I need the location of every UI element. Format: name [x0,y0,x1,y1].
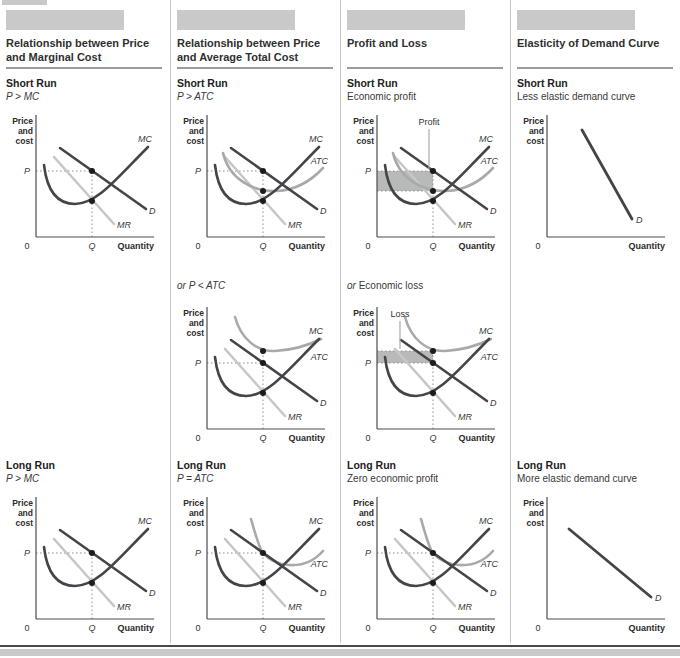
d-curve [569,529,651,597]
column-title: Relationship between Price and Marginal … [6,37,164,67]
intersection-dot [430,198,436,204]
mr-curve-label: MR [288,220,302,230]
intersection-dot [89,580,95,586]
intersection-dot [430,550,436,556]
long-run-section-header: Long Run P > MC [6,459,167,489]
atc-curve-label: ATC [480,559,499,569]
subtitle-text: P = ATC [177,473,214,484]
intersection-dot [430,168,436,174]
y-axis-label: and [359,126,374,136]
mr-curve-label: MR [117,220,131,230]
quantity-tick-label: Q [429,623,436,633]
origin-label: 0 [535,623,540,633]
y-axis-label: and [359,508,374,518]
y-axis-label: and [359,318,374,328]
diagram-svg: Priceandcost0QuantityPQMRDMC [0,111,160,261]
d-curve-label: D [490,398,497,408]
subtitle-text: P > ATC [177,91,214,102]
quantity-tick-label: Q [259,623,266,633]
y-axis-label: cost [357,328,375,338]
quantity-tick-label: Q [259,241,266,251]
long-run-section-header: Long Run P = ATC [177,459,337,489]
mr-curve-label: MR [288,412,302,422]
origin-label: 0 [365,241,370,251]
mc-curve [44,147,148,204]
subtitle-text: Economic loss [359,280,423,291]
short-run-heading: Short Run [6,77,167,90]
long-run-subtitle: P > MC [6,472,167,485]
short-run-heading: Short Run [177,77,337,90]
short-run-heading: Short Run [517,77,677,90]
d-curve-label: D [149,588,156,598]
chart-price-mc-long-run: Priceandcost0QuantityPQMRDMC [6,493,167,643]
origin-label: 0 [24,623,29,633]
chart-zero-economic-profit: Priceandcost0QuantityPQMRATCDMC [347,493,507,643]
mr-curve-label: MR [288,602,302,612]
subtitle-prefix: or [177,280,189,291]
mr-curve-label: MR [117,602,131,612]
x-axis-label: Quantity [288,241,325,251]
chart-more-elastic-demand: Priceandcost0QuantityD [517,493,677,643]
diagram-svg: Priceandcost0QuantityPQMRATCDMC [171,111,331,261]
long-run-section-header: Long Run More elastic demand curve [517,459,677,489]
y-axis-label: and [18,126,33,136]
price-tick-label: P [365,358,371,368]
y-axis-label: and [189,126,204,136]
chart-price-atc-long-run: Priceandcost0QuantityPQMRATCDMC [177,493,337,643]
intersection-dot [430,348,436,354]
y-axis-label: cost [16,518,34,528]
mc-curve-label: MC [309,326,323,336]
mc-curve [215,339,319,396]
atc-curve-label: ATC [310,156,329,166]
subtitle-text: P > MC [6,91,39,102]
diagram-svg: Priceandcost0QuantityPQMRATCDMCProfit [341,111,501,261]
quantity-tick-label: Q [429,241,436,251]
mr-curve-label: MR [458,412,472,422]
y-axis-label: Price [183,308,204,318]
y-axis-label: Price [12,498,33,508]
d-curve-label: D [636,215,643,225]
intersection-dot [430,188,436,194]
page-edge-tab [2,0,47,5]
diagram-svg: Priceandcost0QuantityPQMRATCDMC [171,493,331,643]
column-title: Profit and Loss [347,37,505,67]
mc-curve-label: MC [479,326,493,336]
intersection-dot [260,198,266,204]
y-axis-label: Price [523,116,544,126]
short-run-section-header: Short Run Economic profit [347,77,507,107]
intersection-dot [260,168,266,174]
subtitle-text: Economic profit [347,91,416,102]
column-price-average-total-cost: Relationship between Price and Average T… [170,0,340,643]
y-axis-label: cost [187,136,205,146]
annotation-label: Loss [390,309,410,319]
origin-label: 0 [535,241,540,251]
price-tick-label: P [195,548,201,558]
intersection-dot [260,348,266,354]
diagram-svg: Priceandcost0QuantityPQMRDMC [0,493,160,643]
y-axis-label: cost [187,328,205,338]
quantity-tick-label: Q [259,433,266,443]
atc-curve-label: ATC [310,352,329,362]
y-axis-label: cost [357,518,375,528]
y-axis-label: cost [16,136,34,146]
price-tick-label: P [365,166,371,176]
intersection-dot [89,168,95,174]
price-tick-label: P [365,548,371,558]
footer-band [0,649,680,656]
diagram-svg: Priceandcost0QuantityPQMRATCDMCLoss [341,303,501,453]
subtitle-text: P < ATC [189,280,226,291]
subtitle-text: P > MC [6,473,39,484]
footer-rule [0,645,680,647]
price-tick-label: P [24,548,30,558]
y-axis-label: cost [527,518,545,528]
intersection-dot [430,580,436,586]
chart-economic-profit: Priceandcost0QuantityPQMRATCDMCProfit [347,111,507,261]
diagram-svg: Priceandcost0QuantityD [511,111,671,261]
x-axis-label: Quantity [117,623,154,633]
origin-label: 0 [365,623,370,633]
mr-curve-label: MR [458,602,472,612]
title-rule [517,67,673,69]
y-axis-label: Price [183,498,204,508]
comparison-table: Relationship between Price and Marginal … [0,0,680,643]
d-curve-label: D [149,206,156,216]
